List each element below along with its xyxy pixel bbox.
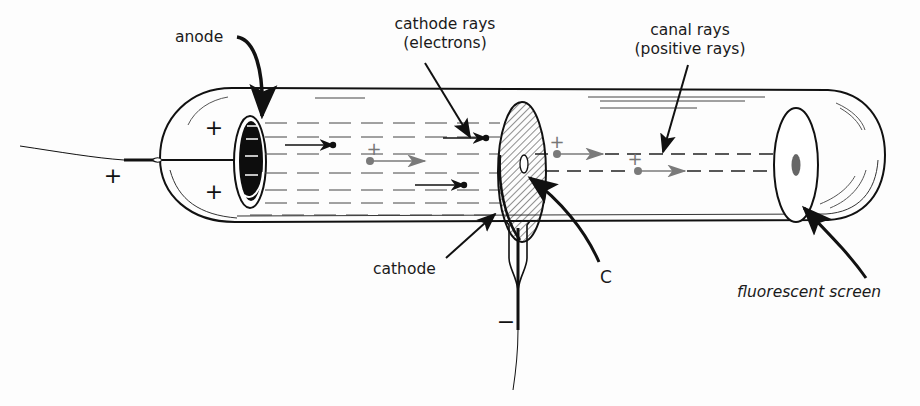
discharge-tube-illustration — [0, 0, 920, 406]
label-fluorescent-screen: fluorescent screen — [737, 283, 881, 301]
label-anode: anode — [175, 28, 223, 46]
label-cathode: cathode — [373, 260, 436, 278]
cathode-channel-hole — [520, 155, 528, 173]
cathode-disc — [498, 102, 546, 242]
label-canal-rays: canal rays — [650, 21, 730, 39]
discharge-glow-lines — [250, 123, 505, 215]
anode-lower-plus-sign: + — [205, 181, 223, 203]
cathode-terminal-minus-sign: − — [497, 311, 515, 333]
anode-disc — [234, 116, 266, 208]
positive-ion-sign-2: + — [549, 131, 564, 153]
anode-terminal-plus-sign: + — [104, 165, 122, 187]
fluorescent-screen — [774, 108, 818, 222]
anode-upper-plus-sign: + — [205, 117, 223, 139]
positive-ion-sign-1: + — [366, 138, 381, 160]
positive-ion-sign-3: + — [627, 148, 642, 170]
glow-spot — [792, 154, 801, 176]
anode-lead — [20, 146, 236, 162]
label-pointers — [237, 37, 866, 278]
label-electrons: (electrons) — [403, 34, 487, 52]
label-positive-rays: (positive rays) — [635, 40, 746, 58]
label-channel-c: C — [600, 268, 612, 286]
diagram-canvas: anode cathode rays (electrons) canal ray… — [0, 0, 920, 406]
canal-ray-beams — [535, 154, 775, 171]
label-cathode-rays: cathode rays — [395, 15, 496, 33]
cathode-side-arm — [506, 221, 530, 390]
